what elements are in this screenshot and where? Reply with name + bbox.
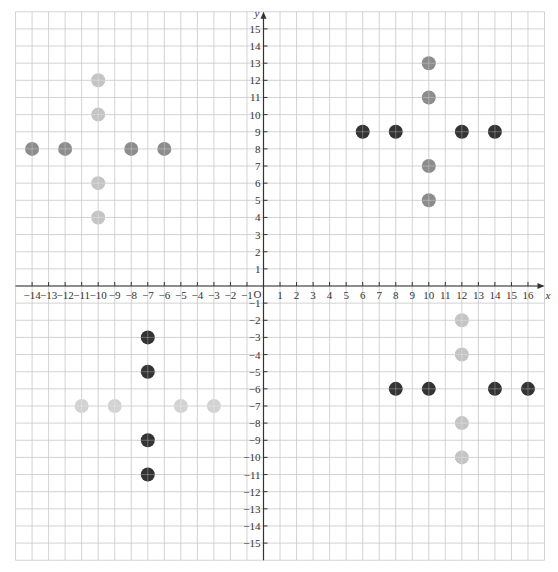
y-tick-label: −6 xyxy=(249,383,261,395)
x-tick-label: 6 xyxy=(360,289,366,301)
data-point xyxy=(422,90,436,104)
data-point xyxy=(141,330,155,344)
x-tick-label: −4 xyxy=(192,289,204,301)
x-tick-label: 7 xyxy=(376,289,382,301)
x-tick-label: 8 xyxy=(393,289,399,301)
x-tick-label: 4 xyxy=(327,289,333,301)
data-point xyxy=(422,193,436,207)
y-tick-label: −15 xyxy=(243,537,261,549)
data-point xyxy=(521,382,535,396)
x-tick-label: 13 xyxy=(473,289,485,301)
y-tick-label: −10 xyxy=(243,451,261,463)
y-tick-label: −8 xyxy=(249,417,261,429)
y-tick-label: −5 xyxy=(249,366,261,378)
y-tick-label: 5 xyxy=(255,194,261,206)
data-point xyxy=(91,176,105,190)
x-tick-label: −12 xyxy=(57,289,74,301)
y-tick-label: 13 xyxy=(250,57,262,69)
x-tick-label: −10 xyxy=(90,289,108,301)
x-tick-label: 5 xyxy=(343,289,349,301)
data-point xyxy=(455,348,469,362)
y-tick-label: −11 xyxy=(244,469,261,481)
y-tick-label: 6 xyxy=(255,177,261,189)
y-tick-label: 8 xyxy=(255,143,261,155)
data-point xyxy=(25,142,39,156)
y-tick-label: 11 xyxy=(250,91,261,103)
data-point xyxy=(422,382,436,396)
data-point xyxy=(58,142,72,156)
x-tick-label: 14 xyxy=(489,289,501,301)
x-tick-label: −6 xyxy=(158,289,170,301)
y-tick-label: −12 xyxy=(243,486,260,498)
origin-label: O xyxy=(254,288,262,300)
data-point xyxy=(356,125,370,139)
data-point xyxy=(141,365,155,379)
x-tick-label: −8 xyxy=(125,289,137,301)
data-point xyxy=(124,142,138,156)
y-axis-label: y xyxy=(254,7,260,19)
x-tick-label: −9 xyxy=(109,289,121,301)
data-point xyxy=(91,108,105,122)
y-tick-label: −3 xyxy=(249,331,261,343)
y-tick-label: 14 xyxy=(250,40,262,52)
data-point xyxy=(455,416,469,430)
y-tick-label: 15 xyxy=(250,23,262,35)
x-tick-label: 3 xyxy=(310,289,316,301)
y-tick-label: 3 xyxy=(255,229,261,241)
x-tick-label: 12 xyxy=(456,289,467,301)
data-point xyxy=(75,399,89,413)
data-point xyxy=(455,450,469,464)
data-point xyxy=(157,142,171,156)
x-tick-label: 2 xyxy=(294,289,300,301)
y-tick-label: −9 xyxy=(249,434,261,446)
x-tick-label: −13 xyxy=(40,289,58,301)
data-point xyxy=(141,433,155,447)
data-point xyxy=(455,125,469,139)
data-point xyxy=(108,399,122,413)
data-point xyxy=(488,382,502,396)
x-tick-label: 1 xyxy=(277,289,283,301)
x-tick-label: −11 xyxy=(73,289,90,301)
y-tick-label: 7 xyxy=(255,160,261,172)
data-point xyxy=(91,210,105,224)
data-point xyxy=(455,313,469,327)
y-tick-label: 10 xyxy=(250,109,262,121)
x-tick-label: −5 xyxy=(175,289,187,301)
y-tick-label: −2 xyxy=(249,314,261,326)
x-tick-label: 11 xyxy=(440,289,451,301)
x-axis-label: x xyxy=(545,289,551,301)
data-point xyxy=(91,73,105,87)
data-point xyxy=(141,468,155,482)
y-tick-label: −7 xyxy=(249,400,261,412)
x-tick-label: 10 xyxy=(423,289,435,301)
data-point xyxy=(174,399,188,413)
x-tick-label: −14 xyxy=(23,289,41,301)
y-tick-label: −4 xyxy=(249,349,261,361)
coordinate-plane: −14−13−12−11−10−9−8−7−6−5−4−3−2−11234567… xyxy=(0,0,558,572)
y-tick-label: 1 xyxy=(255,263,261,275)
x-tick-label: 9 xyxy=(410,289,416,301)
y-tick-label: −13 xyxy=(243,503,261,515)
x-tick-label: 15 xyxy=(506,289,518,301)
y-axis-arrow-icon xyxy=(261,12,267,19)
data-point xyxy=(422,56,436,70)
y-tick-label: 4 xyxy=(255,211,261,223)
y-tick-label: −14 xyxy=(243,520,261,532)
y-tick-label: 9 xyxy=(255,126,261,138)
x-tick-label: −3 xyxy=(208,289,220,301)
data-point xyxy=(207,399,221,413)
y-tick-label: 2 xyxy=(255,246,261,258)
data-point xyxy=(422,159,436,173)
x-axis-arrow-icon xyxy=(538,283,545,289)
y-tick-label: 12 xyxy=(250,74,261,86)
data-point xyxy=(389,382,403,396)
data-point xyxy=(488,125,502,139)
x-tick-label: 16 xyxy=(522,289,534,301)
data-point xyxy=(389,125,403,139)
x-tick-label: −7 xyxy=(142,289,154,301)
x-tick-label: −2 xyxy=(225,289,237,301)
